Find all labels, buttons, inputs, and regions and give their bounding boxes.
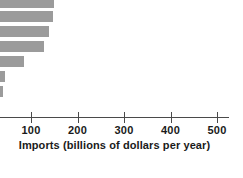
x-axis-tick-label: 300: [104, 124, 144, 136]
bar-row: [0, 86, 3, 97]
bar-row: [0, 26, 49, 37]
bar-row: [0, 0, 54, 8]
x-axis-tick: [124, 112, 125, 123]
bar-chart-figure: 100 200 300 400 500 Imports (billions of…: [0, 0, 243, 178]
x-axis-tick: [217, 112, 218, 123]
x-axis-line: [0, 117, 229, 118]
bar-row: [0, 11, 53, 22]
x-axis-tick: [171, 112, 172, 123]
bar-row: [0, 71, 5, 82]
x-axis-tick-label: 500: [197, 124, 237, 136]
x-axis-tick-label: 200: [58, 124, 98, 136]
x-axis-tick-label: 100: [11, 124, 51, 136]
bar-row: [0, 56, 24, 67]
x-axis-tick: [78, 112, 79, 123]
x-axis-title: Imports (billions of dollars per year): [0, 139, 229, 151]
x-axis-tick-label: 400: [151, 124, 191, 136]
x-axis-tick: [31, 112, 32, 123]
bar-row: [0, 41, 44, 52]
plot-area: [0, 0, 243, 118]
